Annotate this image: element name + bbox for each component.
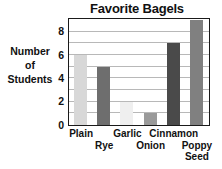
bar-chart: Favorite Bagels Number of Students 02468…: [0, 0, 222, 169]
bar: [167, 43, 180, 125]
bar: [74, 55, 87, 125]
x-tick-label-line-1: Poppy: [182, 140, 213, 151]
x-tick-label-line-2: Seed: [168, 151, 222, 162]
x-tick-label: Cinnamon: [145, 128, 203, 139]
bar: [97, 67, 110, 125]
gridline: [69, 101, 209, 102]
gridline: [69, 89, 209, 90]
bar: [144, 113, 157, 125]
gridline: [69, 66, 209, 67]
gridline: [69, 42, 209, 43]
y-tick-label: 8: [48, 26, 64, 36]
bar: [120, 102, 133, 125]
x-tick-label: PoppySeed: [168, 140, 222, 162]
y-tick-label: 2: [48, 96, 64, 106]
gridline: [69, 77, 209, 78]
y-tick-label: 6: [48, 50, 64, 60]
bar: [190, 20, 203, 125]
gridline: [69, 54, 209, 55]
chart-title: Favorite Bagels: [62, 1, 212, 16]
gridline: [69, 112, 209, 113]
gridline: [69, 31, 209, 32]
plot-area: [68, 18, 210, 126]
y-tick-label: 4: [48, 73, 64, 83]
y-axis-title-line-2: of: [0, 58, 60, 72]
